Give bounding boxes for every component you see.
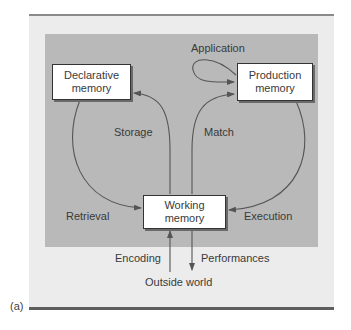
working-memory-label-line2: memory	[164, 212, 204, 225]
production-memory-label-line1: Production	[249, 69, 302, 82]
figure-caption: (a)	[10, 300, 23, 312]
declarative-memory-node: Declarative memory	[52, 64, 131, 100]
working-memory-label-line1: Working	[164, 199, 204, 212]
production-memory-node: Production memory	[237, 63, 313, 101]
declarative-memory-label-line1: Declarative	[64, 69, 119, 82]
performances-label: Performances	[201, 252, 269, 264]
encoding-label: Encoding	[115, 252, 161, 264]
storage-label: Storage	[114, 126, 153, 138]
storage-arrow	[134, 93, 170, 194]
outside-world-label: Outside world	[145, 276, 212, 288]
retrieval-label: Retrieval	[66, 210, 109, 222]
match-arrow	[192, 94, 234, 194]
execution-label: Execution	[244, 210, 292, 222]
act-architecture-diagram: Declarative memory Production memory Wor…	[0, 0, 351, 330]
retrieval-arrow	[73, 100, 141, 208]
match-label: Match	[204, 126, 234, 138]
application-label: Application	[191, 42, 245, 54]
declarative-memory-label-line2: memory	[64, 82, 119, 95]
application-loop-arrow	[193, 60, 236, 82]
production-memory-label-line2: memory	[249, 82, 302, 95]
working-memory-node: Working memory	[143, 195, 226, 229]
execution-arrow	[229, 101, 305, 210]
